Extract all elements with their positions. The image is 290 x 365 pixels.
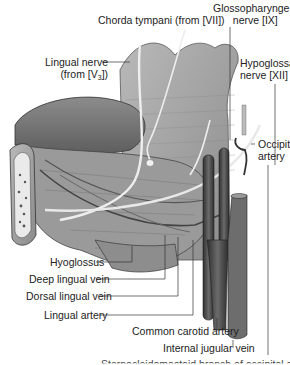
jugular-cut-end bbox=[231, 194, 247, 199]
label-dorsal-lingual-vein: Dorsal lingual vein bbox=[26, 290, 112, 302]
label-chorda-tympani: Chorda tympani (from [VII]) bbox=[98, 14, 225, 26]
anatomy-figure: Chorda tympani (from [VII]) Glossopharyn… bbox=[0, 0, 290, 365]
label-glossopharyngeal-line2: nerve [IX] bbox=[213, 14, 290, 26]
label-occipital-artery: Occipital artery bbox=[258, 138, 290, 162]
label-hypoglossal-line2: nerve [XII] bbox=[240, 69, 290, 81]
stylohyoid-fragment bbox=[242, 105, 246, 135]
label-occipital-line2: artery bbox=[258, 150, 290, 162]
label-lingual-nerve-line1: Lingual nerve bbox=[45, 56, 108, 68]
tongue-dorsum bbox=[15, 97, 145, 153]
mandible-bone bbox=[14, 153, 31, 238]
label-deep-lingual-vein: Deep lingual vein bbox=[29, 273, 110, 285]
label-glossopharyngeal: Glossopharyngeal nerve [IX] bbox=[213, 2, 290, 26]
label-common-carotid: Common carotid artery bbox=[132, 325, 239, 337]
label-lingual-artery: Lingual artery bbox=[44, 309, 108, 321]
lingual-nerve-suffix: ]) bbox=[102, 68, 108, 80]
label-hyoglossus: Hyoglossus bbox=[50, 256, 104, 268]
label-occipital-line1: Occipital bbox=[258, 138, 290, 150]
internal-jugular-vessel bbox=[228, 195, 247, 339]
label-hypoglossal-line1: Hypoglossal bbox=[240, 57, 290, 69]
lingual-nerve-prefix: (from [V bbox=[60, 68, 97, 80]
label-glossopharyngeal-line1: Glossopharyngeal bbox=[213, 2, 290, 14]
internal-carotid-vessel bbox=[219, 148, 229, 248]
label-internal-jugular: Internal jugular vein bbox=[163, 342, 255, 354]
submandibular-ganglion bbox=[146, 160, 154, 167]
label-lingual-nerve-line2: (from [V3]) bbox=[45, 68, 108, 84]
label-lingual-nerve: Lingual nerve (from [V3]) bbox=[45, 56, 108, 84]
label-hypoglossal: Hypoglossal nerve [XII] bbox=[240, 57, 290, 81]
